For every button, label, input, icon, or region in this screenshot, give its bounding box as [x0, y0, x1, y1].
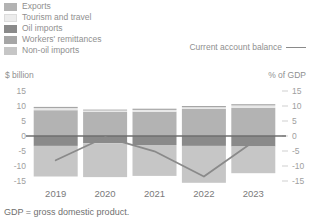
y-tick-left-10: 10 — [17, 101, 27, 111]
y-axis-left-title: $ billion — [5, 70, 34, 80]
bar-segment — [83, 112, 127, 136]
legend-label-tourism-and-travel: Tourism and travel — [22, 13, 91, 22]
bar-segment — [34, 136, 78, 146]
legend-swatch-workers-remittances — [4, 36, 17, 44]
y-tick-left-0: 0 — [21, 131, 26, 141]
bar-segment — [34, 107, 78, 108]
bar-segment — [133, 112, 177, 136]
legend-item-exports: Exports — [4, 1, 51, 12]
chart-legend: Exports Tourism and travel Oil imports W… — [0, 0, 312, 58]
x-axis-labels: 20192020202120222023 — [0, 188, 312, 202]
bar-segment — [182, 109, 226, 136]
y-tick-left--5: -5 — [18, 146, 26, 156]
x-axis-label-2023: 2023 — [223, 188, 283, 199]
y-tick-right--10: -10 — [292, 161, 305, 171]
bar-segment — [133, 109, 177, 110]
bar-segment — [231, 108, 275, 136]
bar-segment — [83, 143, 127, 177]
y-tick-right--5: -5 — [292, 146, 300, 156]
bar-series-group — [34, 104, 276, 183]
bar-segment — [182, 107, 226, 109]
legend-item-oil-imports: Oil imports — [4, 23, 63, 34]
bar-segment — [231, 104, 275, 105]
legend-item-current-account-balance: Current account balance — [189, 42, 306, 52]
legend-item-tourism-and-travel: Tourism and travel — [4, 12, 91, 23]
bar-segment — [231, 105, 275, 107]
bar-segment — [83, 111, 127, 113]
legend-item-workers-remittances: Workers' remittances — [4, 34, 101, 45]
chart-root: Exports Tourism and travel Oil imports W… — [0, 0, 312, 223]
bar-segment — [133, 110, 177, 112]
bar-segment — [133, 136, 177, 145]
legend-item-non-oil-imports: Non-oil imports — [4, 45, 79, 56]
bar-segment — [133, 145, 177, 176]
y-tick-right-5: 5 — [292, 116, 297, 126]
legend-label-non-oil-imports: Non-oil imports — [22, 46, 79, 55]
legend-swatch-tourism-and-travel — [4, 14, 17, 22]
legend-label-exports: Exports — [22, 2, 51, 11]
plot-area: 151050-5-10-15 151050-5-10-15 — [0, 82, 312, 187]
y-tick-right-0: 0 — [292, 131, 297, 141]
legend-label-workers-remittances: Workers' remittances — [22, 35, 101, 44]
y-axis-left-ticks: 151050-5-10-15 — [14, 86, 27, 186]
bar-segment — [231, 147, 275, 174]
legend-swatch-non-oil-imports — [4, 47, 17, 55]
chart-footnote: GDP = gross domestic product. — [4, 207, 129, 217]
bar-segment — [34, 110, 78, 136]
y-tick-right-15: 15 — [292, 86, 302, 96]
y-tick-left--15: -15 — [14, 176, 27, 186]
legend-label-oil-imports: Oil imports — [22, 24, 63, 33]
bar-segment — [182, 136, 226, 146]
legend-label-current-account-balance: Current account balance — [189, 42, 282, 52]
legend-swatch-current-account-balance — [286, 47, 306, 48]
legend-swatch-oil-imports — [4, 25, 17, 33]
y-tick-left-5: 5 — [21, 116, 26, 126]
y-tick-right-10: 10 — [292, 101, 302, 111]
y-tick-left--10: -10 — [14, 161, 27, 171]
chart-svg: 151050-5-10-15 151050-5-10-15 — [0, 82, 312, 187]
y-axis-right-ticks: 151050-5-10-15 — [292, 86, 305, 186]
y-axis-right-title: % of GDP — [268, 70, 306, 80]
bar-segment — [182, 106, 226, 107]
bar-segment — [83, 110, 127, 111]
legend-swatch-exports — [4, 3, 17, 11]
y-tick-left-15: 15 — [17, 86, 27, 96]
bar-segment — [34, 108, 78, 110]
y-tick-right--15: -15 — [292, 176, 305, 186]
